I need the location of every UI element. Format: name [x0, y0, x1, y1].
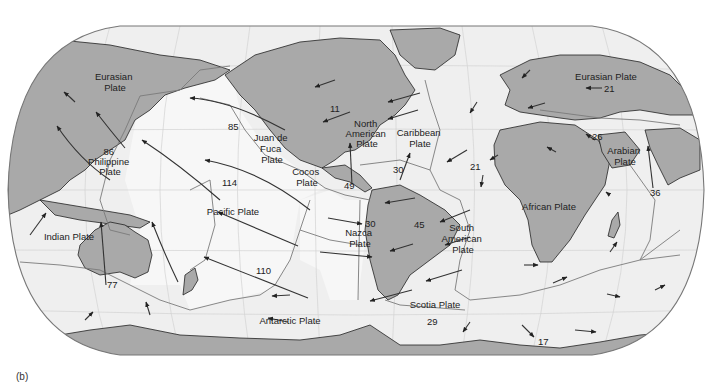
velocity-11: 11	[330, 103, 340, 114]
velocity-21-atlantic: 21	[470, 161, 481, 172]
label-scotia: Scotia Plate	[410, 299, 461, 310]
velocity-114: 114	[222, 177, 237, 188]
velocity-30-caribbean: 30	[393, 164, 404, 175]
panel-label: (b)	[16, 371, 28, 382]
velocity-45: 45	[414, 219, 425, 230]
velocity-36: 36	[650, 187, 661, 198]
velocity-29: 29	[427, 316, 438, 327]
label-antarctic: Antarctic Plate	[259, 315, 320, 326]
velocity-26: 26	[592, 131, 603, 142]
velocity-30-nazca: 30	[365, 218, 376, 229]
label-eurasian-east: Eurasian Plate	[575, 71, 637, 82]
label-indian: Indian Plate	[44, 231, 94, 242]
tectonic-plate-map: Eurasian Plate 86 Philippine Plate Juan …	[0, 0, 712, 392]
velocity-21-eurasia: 21	[604, 83, 615, 94]
velocity-110: 110	[256, 265, 271, 276]
velocity-77: 77	[107, 279, 118, 290]
velocity-85: 85	[228, 121, 239, 132]
label-pacific: Pacific Plate	[207, 206, 259, 217]
label-african: African Plate	[522, 201, 576, 212]
velocity-17: 17	[538, 336, 549, 347]
label-nazca: Nazca Plate	[345, 227, 375, 249]
velocity-49: 49	[344, 180, 355, 191]
label-cocos: Cocos Plate	[292, 166, 322, 188]
